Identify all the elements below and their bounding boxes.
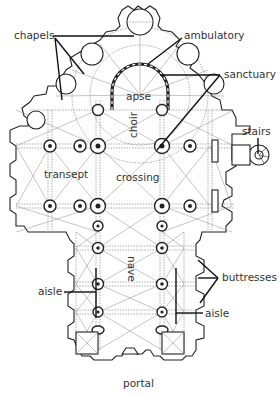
label-portal: portal bbox=[123, 377, 154, 389]
label-nave: nave bbox=[126, 256, 138, 282]
label-buttresses: buttresses bbox=[222, 271, 277, 283]
label-chapels: chapels bbox=[14, 29, 54, 41]
label-crossing: crossing bbox=[116, 171, 159, 183]
label-transept: transept bbox=[44, 168, 88, 180]
label-aisle-left: aisle bbox=[38, 285, 62, 297]
label-ambulatory: ambulatory bbox=[184, 29, 244, 41]
label-sanctuary: sanctuary bbox=[224, 68, 276, 80]
cathedral-plan: chapels ambulatory apse sanctuary choir … bbox=[0, 0, 280, 396]
label-choir: choir bbox=[127, 111, 139, 138]
label-aisle-right: aisle bbox=[205, 307, 229, 319]
label-apse: apse bbox=[126, 90, 151, 102]
label-stairs: stairs bbox=[242, 125, 271, 137]
stair-turret bbox=[232, 145, 269, 165]
